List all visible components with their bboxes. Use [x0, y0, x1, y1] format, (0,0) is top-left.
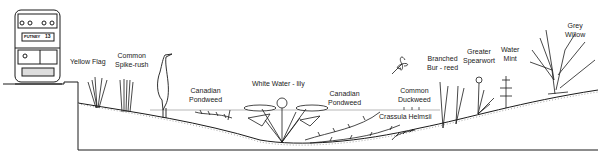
plant-grey-willow — [530, 30, 595, 94]
label-branched-bur-reed: Branched Bur - reed — [427, 55, 458, 72]
label-white-water-lily: White Water - lily — [252, 80, 305, 89]
plant-greater-spearwort — [476, 77, 494, 114]
label-grey-willow: Grey Willow — [565, 22, 585, 39]
plant-crassula-helmsii — [392, 129, 415, 140]
dragonfly — [392, 57, 408, 74]
bus-icon — [15, 10, 62, 84]
label-common-spike-rush: Common Spike-rush — [115, 52, 148, 69]
heron — [158, 54, 172, 118]
plant-water-mint — [500, 76, 512, 108]
label-crassula-helmsii: Crassula Helmsii — [379, 113, 432, 122]
label-water-mint: Water Mint — [501, 46, 519, 63]
plant-common-duckweed — [404, 107, 419, 110]
plant-canadian-pondweed-1 — [195, 110, 232, 120]
bus-destination: PUTNEY — [24, 34, 40, 39]
label-canadian-pondweed-1: Canadian Pondweed — [189, 87, 222, 104]
label-canadian-pondweed-2: Canadian Pondweed — [328, 90, 361, 107]
plant-spike-rush — [120, 79, 133, 112]
label-common-duckweed: Common Duckweed — [398, 87, 431, 104]
label-yellow-flag: Yellow Flag — [70, 58, 106, 67]
label-greater-spearwort: Greater Spearwort — [463, 48, 495, 65]
plant-white-water-lily — [244, 98, 328, 142]
plant-yellow-flag — [88, 77, 107, 108]
bus-route-number: 13 — [45, 33, 51, 39]
